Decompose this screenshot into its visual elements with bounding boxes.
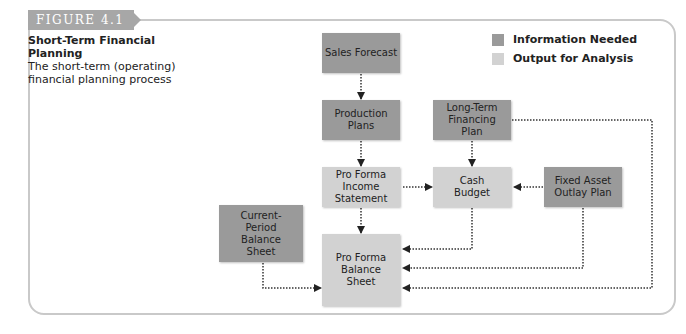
- node-sales-forecast: Sales Forecast: [322, 33, 400, 73]
- node-fixed-asset-outlay-plan: Fixed Asset Outlay Plan: [544, 167, 622, 207]
- node-cash-budget: Cash Budget: [433, 167, 511, 207]
- node-long-term-financing-plan: Long-Term Financing Plan: [433, 100, 511, 140]
- node-pro-forma-balance-sheet: Pro Forma Balance Sheet: [322, 234, 400, 306]
- node-pro-forma-income-statement: Pro Forma Income Statement: [322, 167, 400, 207]
- node-production-plans: Production Plans: [322, 100, 400, 140]
- node-current-period-balance-sheet: Current-Period Balance Sheet: [219, 205, 303, 262]
